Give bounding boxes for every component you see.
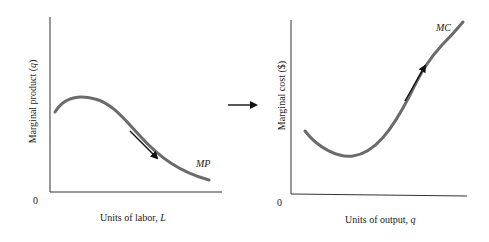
mp-curve-label: MP: [196, 158, 210, 169]
right-y-axis-label: Marginal cost ($): [276, 46, 287, 146]
mc-curve-label: MC: [436, 22, 451, 33]
right-x-axis-label: Units of output, q: [345, 214, 416, 225]
mp-curve: [55, 97, 209, 180]
right-origin-label: 0: [277, 197, 282, 208]
left-origin-label: 0: [33, 195, 38, 206]
charts-canvas: [0, 0, 489, 242]
mc-curve: [305, 22, 463, 156]
left-y-axis-label: Marginal product (q): [27, 47, 38, 157]
mc-direction-arrow: [405, 66, 425, 101]
left-x-axis-label: Units of labor, L: [100, 212, 166, 223]
mp-direction-arrow: [130, 131, 157, 158]
